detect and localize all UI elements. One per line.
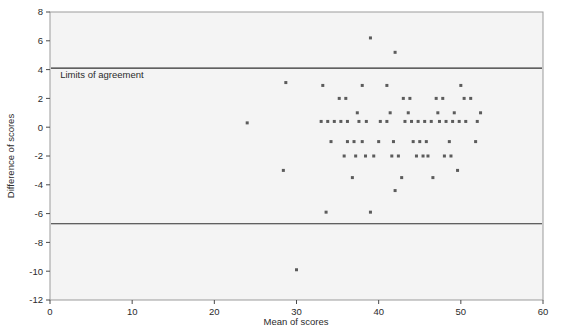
data-point (436, 111, 439, 114)
data-point (282, 169, 285, 172)
data-point (325, 211, 328, 214)
data-point (365, 120, 368, 123)
data-point (379, 120, 382, 123)
data-point (369, 36, 372, 39)
y-tick-label: -8 (35, 237, 43, 248)
y-tick-label: -4 (35, 179, 43, 190)
x-tick-label: 10 (127, 306, 138, 317)
x-tick-label: 20 (209, 306, 220, 317)
data-point (346, 140, 349, 143)
data-point (415, 155, 418, 158)
chart-canvas: 86420-2-4-6-8-10-12 0102030405060 Limits… (0, 0, 567, 333)
data-point (361, 84, 364, 87)
data-point (321, 84, 324, 87)
data-point (408, 97, 411, 100)
data-point (430, 120, 433, 123)
data-point (449, 155, 452, 158)
y-tick-label: -6 (35, 208, 43, 219)
y-tick-label: -12 (29, 294, 43, 305)
data-point (423, 120, 426, 123)
data-point (441, 97, 444, 100)
data-point (445, 120, 448, 123)
y-tick-label: 4 (38, 64, 43, 75)
data-point (451, 120, 454, 123)
data-point (295, 268, 298, 271)
data-point (333, 120, 336, 123)
x-tick-label: 0 (47, 306, 52, 317)
data-point (407, 111, 410, 114)
data-point (412, 140, 415, 143)
data-point (326, 120, 329, 123)
data-point (353, 140, 356, 143)
data-point (394, 51, 397, 54)
data-point (338, 97, 341, 100)
y-axis-ticks: 86420-2-4-6-8-10-12 (29, 6, 50, 305)
data-point (410, 120, 413, 123)
x-tick-label: 60 (538, 306, 549, 317)
data-point (417, 120, 420, 123)
data-point (426, 155, 429, 158)
data-point (356, 111, 359, 114)
y-tick-label: 0 (38, 122, 43, 133)
data-point (390, 155, 393, 158)
data-point (392, 140, 395, 143)
chart-annotations: Limits of agreement (60, 69, 144, 80)
data-point (456, 169, 459, 172)
data-point (438, 120, 441, 123)
data-point (364, 155, 367, 158)
data-point (339, 120, 342, 123)
data-point (397, 155, 400, 158)
data-point (474, 140, 477, 143)
data-point (459, 84, 462, 87)
data-point (377, 140, 380, 143)
data-point (369, 211, 372, 214)
data-point (443, 155, 446, 158)
data-point (422, 155, 425, 158)
x-axis-title: Mean of scores (264, 316, 329, 327)
x-tick-label: 50 (456, 306, 467, 317)
data-point (476, 120, 479, 123)
data-point (464, 120, 467, 123)
y-tick-label: -10 (29, 266, 43, 277)
data-point (435, 97, 438, 100)
y-tick-label: -2 (35, 150, 43, 161)
data-point (418, 140, 421, 143)
data-point (400, 176, 403, 179)
data-point (344, 97, 347, 100)
data-point (330, 140, 333, 143)
data-point (425, 140, 428, 143)
data-point (394, 189, 397, 192)
data-point (402, 97, 405, 100)
y-tick-label: 8 (38, 6, 43, 17)
data-point (346, 120, 349, 123)
y-tick-label: 6 (38, 35, 43, 46)
data-point (458, 120, 461, 123)
bland-altman-scatter-figure: 86420-2-4-6-8-10-12 0102030405060 Limits… (0, 0, 567, 333)
x-tick-label: 40 (373, 306, 384, 317)
data-point (320, 120, 323, 123)
data-point (448, 140, 451, 143)
y-axis-title: Difference of scores (5, 114, 16, 199)
data-point (385, 120, 388, 123)
data-point (351, 176, 354, 179)
data-point (246, 121, 249, 124)
data-point (385, 84, 388, 87)
data-point (453, 111, 456, 114)
data-point (284, 81, 287, 84)
data-point (479, 111, 482, 114)
data-point (389, 111, 392, 114)
data-point (463, 97, 466, 100)
data-point (357, 120, 360, 123)
data-point (343, 155, 346, 158)
data-point (403, 120, 406, 123)
limits-of-agreement-label: Limits of agreement (60, 69, 144, 80)
x-axis-ticks: 0102030405060 (47, 300, 548, 317)
data-point (372, 155, 375, 158)
data-point (469, 97, 472, 100)
data-point (431, 176, 434, 179)
data-point (354, 155, 357, 158)
data-point (361, 140, 364, 143)
plot-area-background (50, 12, 543, 300)
y-tick-label: 2 (38, 93, 43, 104)
